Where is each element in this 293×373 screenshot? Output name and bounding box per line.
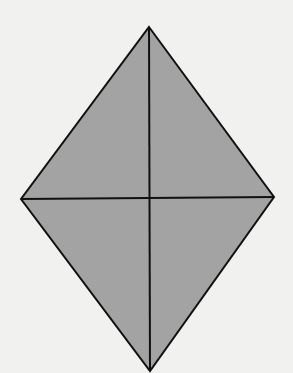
rhombus-diagram <box>0 0 293 373</box>
vertical-diagonal <box>149 27 150 371</box>
